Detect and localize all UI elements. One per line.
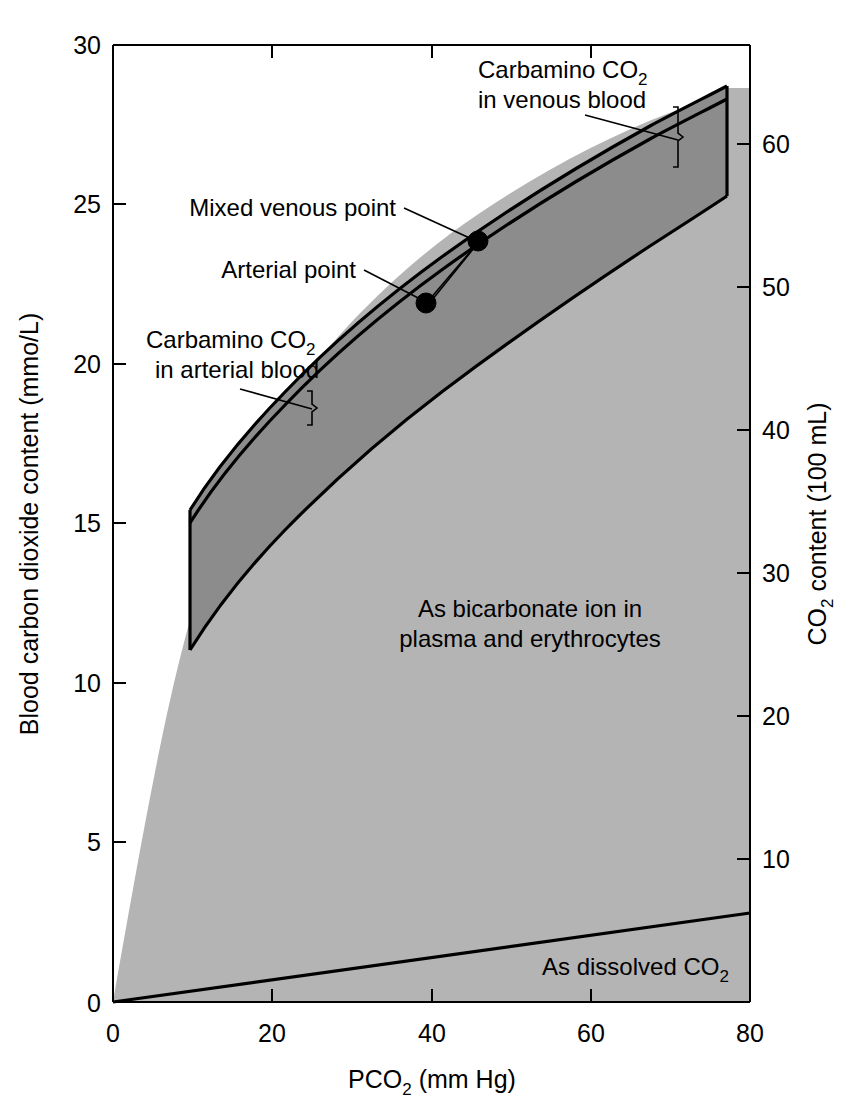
x-axis-title-unit: (mm Hg): [412, 1065, 516, 1093]
leader-mixed-venous: [404, 208, 474, 240]
ytick-label-left-10: 10: [73, 669, 101, 697]
ytick-label-left-30: 30: [73, 31, 101, 59]
xtick-label-80: 80: [736, 1019, 764, 1047]
co2-dissociation-figure: 0 5 10 15 20 25 30 10 20 30 40 50 60 0 2…: [0, 0, 855, 1106]
ytick-label-right-40: 40: [762, 416, 790, 444]
annotation-carbamino-venous-text: Carbamino CO: [478, 56, 638, 83]
annotation-arterial-point: Arterial point: [221, 256, 356, 283]
ytick-label-right-10: 10: [762, 845, 790, 873]
xtick-label-60: 60: [577, 1019, 605, 1047]
tick-labels-bottom: 0 20 40 60 80: [106, 1019, 764, 1047]
annotation-bicarbonate-line1: As bicarbonate ion in: [418, 595, 642, 622]
xtick-label-40: 40: [418, 1019, 446, 1047]
annotation-carbamino-venous-line1: Carbamino CO2: [478, 56, 648, 89]
annotation-carbamino-venous-line2: in venous blood: [478, 86, 646, 113]
y-axis-left-title: Blood carbon dioxide content (mmo/L): [15, 313, 43, 735]
ytick-label-left-15: 15: [73, 509, 101, 537]
annotation-dissolved-co2-subscript: 2: [719, 967, 728, 986]
arterial-point-marker[interactable]: [416, 293, 436, 313]
x-axis-title-subscript: 2: [402, 1080, 411, 1099]
ytick-label-right-20: 20: [762, 702, 790, 730]
x-axis-title: PCO2 (mm Hg): [348, 1065, 516, 1099]
ytick-label-right-50: 50: [762, 273, 790, 301]
ytick-label-right-60: 60: [762, 130, 790, 158]
annotation-bicarbonate-line2: plasma and erythrocytes: [399, 625, 660, 652]
annotation-mixed-venous-point: Mixed venous point: [189, 194, 396, 221]
co2-dissociation-chart: 0 5 10 15 20 25 30 10 20 30 40 50 60 0 2…: [0, 0, 855, 1106]
ytick-label-left-25: 25: [73, 190, 101, 218]
ytick-label-right-30: 30: [762, 559, 790, 587]
annotation-carbamino-arterial-line1: Carbamino CO2: [146, 326, 316, 359]
annotation-dissolved-co2-text: As dissolved CO: [542, 953, 719, 980]
y-axis-right-title-unit: content (100 mL): [803, 403, 831, 599]
xtick-label-20: 20: [258, 1019, 286, 1047]
annotation-carbamino-arterial-text: Carbamino CO: [146, 326, 306, 353]
tick-labels-left: 0 5 10 15 20 25 30: [73, 31, 101, 1017]
mixed-venous-point-marker[interactable]: [468, 231, 488, 251]
y-axis-right-title-main: CO: [803, 608, 831, 646]
ticks-left: [113, 204, 126, 842]
y-axis-right-title-subscript: 2: [818, 598, 837, 607]
shaded-regions: [113, 86, 750, 1002]
x-axis-title-main: PCO: [348, 1065, 402, 1093]
ytick-label-left-5: 5: [87, 828, 101, 856]
annotation-carbamino-arterial-line2: in arterial blood: [155, 356, 319, 383]
ytick-label-left-20: 20: [73, 350, 101, 378]
tick-labels-right: 10 20 30 40 50 60: [762, 130, 790, 873]
ytick-label-left-0: 0: [87, 989, 101, 1017]
xtick-label-0: 0: [106, 1019, 120, 1047]
y-axis-right-title: CO2 content (100 mL): [803, 403, 837, 646]
